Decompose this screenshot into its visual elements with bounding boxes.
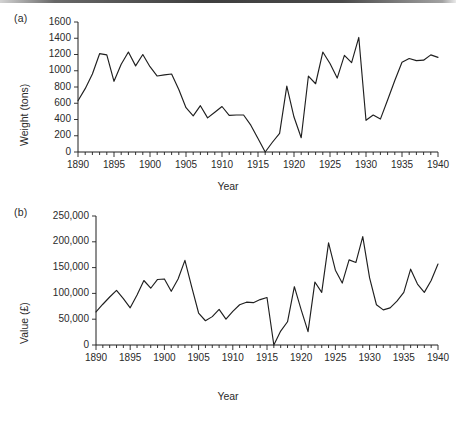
plot-area-value: 050,000100,000150,000200,000250,00018901… <box>0 204 456 379</box>
x-tick-label: 1905 <box>175 159 198 170</box>
x-tick-label: 1935 <box>391 159 414 170</box>
x-tick-label: 1940 <box>427 159 450 170</box>
y-tick-label: 200 <box>54 129 71 140</box>
y-tick-label: 800 <box>54 81 71 92</box>
x-tick-label: 1905 <box>187 352 210 363</box>
x-tick-label: 1900 <box>153 352 176 363</box>
x-tick-label: 1910 <box>211 159 234 170</box>
y-tick-label: 600 <box>54 97 71 108</box>
x-tick-label: 1895 <box>103 159 126 170</box>
x-tick-label: 1925 <box>324 352 347 363</box>
y-tick-label: 1000 <box>49 64 72 75</box>
x-tick-label: 1895 <box>119 352 142 363</box>
x-tick-label: 1890 <box>67 159 90 170</box>
x-tick-label: 1890 <box>85 352 108 363</box>
y-tick-label: 150,000 <box>53 261 90 272</box>
y-tick-label: 250,000 <box>53 210 90 221</box>
x-tick-label: 1920 <box>290 352 313 363</box>
x-tick-label: 1915 <box>256 352 279 363</box>
y-tick-label: 100,000 <box>53 287 90 298</box>
x-tick-label: 1910 <box>222 352 245 363</box>
y-tick-label: 1200 <box>49 48 72 59</box>
plot-area-weight: 0200400600800100012001400160018901895190… <box>0 8 456 178</box>
x-axis-title-a: Year <box>0 180 456 192</box>
y-tick-label: 50,000 <box>58 313 89 324</box>
y-tick-label: 1400 <box>49 32 72 43</box>
x-tick-label: 1940 <box>427 352 450 363</box>
chart-panel-value: (b) Value (£) 050,000100,000150,000200,0… <box>0 204 456 435</box>
x-tick-label: 1935 <box>393 352 416 363</box>
scan-edge-artifact <box>0 0 456 3</box>
x-tick-label: 1930 <box>355 159 378 170</box>
y-tick-label: 1600 <box>49 16 72 27</box>
x-tick-label: 1915 <box>247 159 270 170</box>
x-tick-label: 1930 <box>358 352 381 363</box>
y-tick-label: 0 <box>83 339 89 350</box>
series-line <box>78 37 438 152</box>
y-tick-label: 200,000 <box>53 235 90 246</box>
x-tick-label: 1920 <box>283 159 306 170</box>
x-tick-label: 1900 <box>139 159 162 170</box>
series-line <box>96 237 438 345</box>
x-axis-title-b: Year <box>0 390 456 402</box>
chart-panel-weight: (a) Weight (tons) 0200400600800100012001… <box>0 8 456 204</box>
y-tick-label: 0 <box>65 146 71 157</box>
x-tick-label: 1925 <box>319 159 342 170</box>
y-tick-label: 400 <box>54 113 71 124</box>
